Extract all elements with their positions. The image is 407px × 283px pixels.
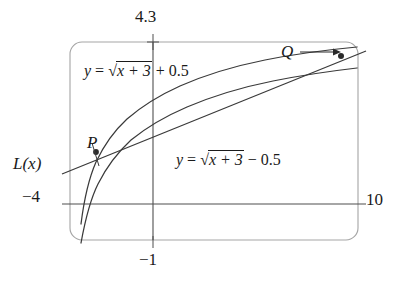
curve-label-upper: y=√x + 3+ 0.5 bbox=[84, 63, 189, 79]
curve-label-lower: y=√x + 3− 0.5 bbox=[176, 152, 281, 168]
curve-label-upper-equals: = bbox=[95, 62, 104, 79]
curve-label-upper-offset: + 0.5 bbox=[156, 62, 189, 79]
tick-label-negative-1: −1 bbox=[139, 251, 157, 268]
curve-label-lower-lhs: y bbox=[176, 151, 183, 168]
tick-label-negative-4: −4 bbox=[22, 188, 40, 205]
point-label-Q: Q bbox=[281, 43, 293, 60]
point-q-dot bbox=[338, 53, 344, 59]
curve-label-upper-sqrt: √x + 3 bbox=[108, 63, 152, 79]
radicand-lower: x + 3 bbox=[208, 150, 244, 168]
curve-label-lower-offset: − 0.5 bbox=[248, 151, 281, 168]
curve-label-lower-equals: = bbox=[187, 151, 196, 168]
tick-label-4point3: 4.3 bbox=[135, 8, 156, 25]
tick-label-10: 10 bbox=[366, 191, 383, 208]
graph-figure: 4.3 −1 −4 10 L(x) P Q y=√x + 3+ 0.5 y=√x… bbox=[0, 0, 407, 283]
curve-label-lower-sqrt: √x + 3 bbox=[200, 152, 244, 168]
point-label-P: P bbox=[87, 134, 97, 151]
curve-label-upper-lhs: y bbox=[84, 62, 91, 79]
line-label-Lx: L(x) bbox=[13, 155, 41, 172]
radicand-upper: x + 3 bbox=[116, 61, 152, 79]
graph-canvas bbox=[0, 0, 407, 283]
